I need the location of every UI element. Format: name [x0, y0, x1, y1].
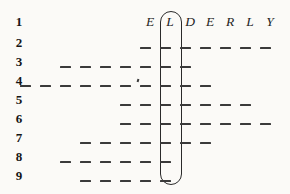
blank-row6-cell5[interactable]: [220, 123, 231, 125]
blank-row3-cell0[interactable]: [60, 66, 71, 68]
word-puzzle-canvas: 123456789ELDERLY: [0, 0, 290, 194]
answer-letter-6: Y: [262, 15, 278, 29]
blank-row8-cell1[interactable]: [80, 161, 91, 163]
blank-row4-cell8[interactable]: [180, 85, 191, 87]
blank-row4-cell2[interactable]: [60, 85, 71, 87]
blank-row7-cell4[interactable]: [160, 142, 171, 144]
row-number-8: 8: [11, 150, 27, 163]
row-number-5: 5: [11, 93, 27, 106]
blank-row2-cell1[interactable]: [160, 47, 171, 49]
blank-row3-cell4[interactable]: [140, 66, 151, 68]
blank-row6-cell4[interactable]: [200, 123, 211, 125]
blank-row4-cell6[interactable]: [140, 85, 151, 87]
blank-row5-cell5[interactable]: [220, 104, 231, 106]
blank-row4-cell0[interactable]: [20, 85, 31, 87]
blank-row5-cell6[interactable]: [240, 104, 251, 106]
blank-row7-cell5[interactable]: [180, 142, 191, 144]
blank-row9-cell4[interactable]: [160, 180, 171, 182]
row-number-2: 2: [11, 36, 27, 49]
blank-row5-cell0[interactable]: [120, 104, 131, 106]
blank-row5-cell2[interactable]: [160, 104, 171, 106]
apostrophe-mark-row4: [137, 79, 140, 82]
blank-row2-cell0[interactable]: [140, 47, 151, 49]
blank-row2-cell6[interactable]: [260, 47, 271, 49]
blank-row7-cell1[interactable]: [100, 142, 111, 144]
answer-letter-2: D: [182, 15, 198, 29]
blank-row5-cell4[interactable]: [200, 104, 211, 106]
blank-row9-cell3[interactable]: [140, 180, 151, 182]
blank-row5-cell3[interactable]: [180, 104, 191, 106]
blank-row3-cell5[interactable]: [160, 66, 171, 68]
row-number-9: 9: [11, 169, 27, 182]
blank-row9-cell0[interactable]: [80, 180, 91, 182]
answer-letter-4: R: [222, 15, 238, 29]
blank-row6-cell1[interactable]: [140, 123, 151, 125]
blank-row4-cell1[interactable]: [40, 85, 51, 87]
row-number-7: 7: [11, 131, 27, 144]
blank-row6-cell7[interactable]: [260, 123, 271, 125]
blank-row4-cell4[interactable]: [100, 85, 111, 87]
row-number-3: 3: [11, 55, 27, 68]
blank-row7-cell3[interactable]: [140, 142, 151, 144]
answer-letter-0: E: [142, 15, 158, 29]
blank-row4-cell5[interactable]: [120, 85, 131, 87]
blank-row3-cell6[interactable]: [180, 66, 191, 68]
blank-row4-cell3[interactable]: [80, 85, 91, 87]
blank-row8-cell3[interactable]: [120, 161, 131, 163]
blank-row8-cell2[interactable]: [100, 161, 111, 163]
blank-row4-cell7[interactable]: [160, 85, 171, 87]
blank-row5-cell1[interactable]: [140, 104, 151, 106]
blank-row8-cell5[interactable]: [160, 161, 171, 163]
blank-row7-cell0[interactable]: [80, 142, 91, 144]
answer-letter-5: L: [242, 15, 258, 29]
blank-row3-cell2[interactable]: [100, 66, 111, 68]
blank-row9-cell1[interactable]: [100, 180, 111, 182]
blank-row6-cell2[interactable]: [160, 123, 171, 125]
blank-row4-cell9[interactable]: [200, 85, 211, 87]
blank-row6-cell0[interactable]: [120, 123, 131, 125]
blank-row9-cell2[interactable]: [120, 180, 131, 182]
row-number-6: 6: [11, 112, 27, 125]
blank-row7-cell6[interactable]: [200, 142, 211, 144]
blank-row2-cell3[interactable]: [200, 47, 211, 49]
blank-row2-cell4[interactable]: [220, 47, 231, 49]
blank-row6-cell3[interactable]: [180, 123, 191, 125]
blank-row2-cell2[interactable]: [180, 47, 191, 49]
blank-row2-cell5[interactable]: [240, 47, 251, 49]
row-number-1: 1: [11, 15, 27, 28]
blank-row3-cell3[interactable]: [120, 66, 131, 68]
answer-letter-3: E: [202, 15, 218, 29]
highlight-oval: [160, 11, 182, 185]
blank-row8-cell4[interactable]: [140, 161, 151, 163]
blank-row7-cell2[interactable]: [120, 142, 131, 144]
blank-row6-cell6[interactable]: [240, 123, 251, 125]
blank-row8-cell0[interactable]: [60, 161, 71, 163]
blank-row3-cell1[interactable]: [80, 66, 91, 68]
